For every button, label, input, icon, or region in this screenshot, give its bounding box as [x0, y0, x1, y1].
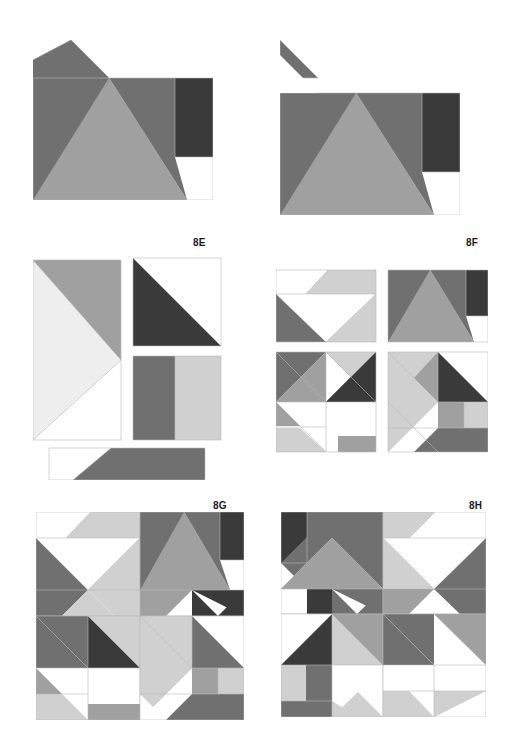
figure-label-8h: 8H	[469, 500, 482, 512]
figure-8g	[36, 512, 244, 720]
figure-label-8g: 8G	[213, 500, 227, 512]
figure-sheet: 8C 8D	[0, 0, 509, 755]
figure-label-8f: 8F	[466, 237, 478, 249]
figure-8e	[33, 250, 223, 480]
figure-8c	[33, 40, 213, 200]
figure-8d	[280, 40, 460, 215]
figure-8f	[276, 250, 488, 455]
figure-label-8e: 8E	[193, 237, 206, 249]
figure-8h	[281, 512, 486, 717]
